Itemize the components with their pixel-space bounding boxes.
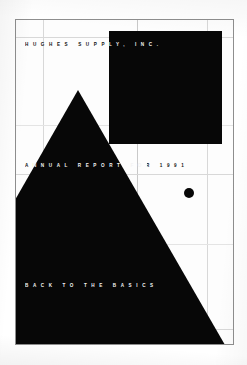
cover-title-text-dark-left: ANNUAL REPORT FOR 1991	[25, 163, 33, 169]
cover-title-line-dark-right: ANNUAL REPORT FOR 1991	[147, 163, 234, 169]
black-triangle-shape	[15, 19, 234, 345]
cover-plate: HUGHES SUPPLY, INC. HUGHES SUPPLY, INC. …	[15, 19, 234, 345]
cover-company-text-knockout: HUGHES SUPPLY, INC.	[109, 42, 163, 48]
cover-tagline-line-dark: BACK TO THE BASICS	[191, 283, 234, 289]
cover-tagline-text-knockout: BACK TO THE BASICS	[25, 283, 158, 289]
cover-company-line-dark: HUGHES SUPPLY, INC.	[25, 42, 109, 48]
black-dot-shape	[184, 188, 194, 198]
cover-title-line-knockout: ANNUAL REPORT FOR 1991	[33, 163, 147, 169]
cover-title-line-dark-left: ANNUAL REPORT FOR 1991	[25, 163, 33, 169]
cover-title-text-knockout: ANNUAL REPORT FOR 1991	[33, 163, 147, 169]
cover-company-line-knockout: HUGHES SUPPLY, INC.	[109, 42, 234, 48]
cover-company-text-dark: HUGHES SUPPLY, INC.	[25, 42, 109, 48]
cover-title-text-dark-right: ANNUAL REPORT FOR 1991	[147, 163, 188, 169]
scanned-cover-page: HUGHES SUPPLY, INC. HUGHES SUPPLY, INC. …	[0, 0, 247, 365]
cover-tagline-line-knockout: BACK TO THE BASICS	[25, 283, 191, 289]
